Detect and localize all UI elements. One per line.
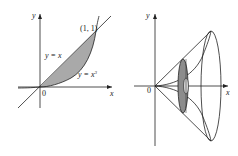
left-panel: y x 0 (1, 1) y = x y = x3 — [18, 11, 114, 108]
right-x-axis-label: x — [225, 88, 230, 97]
right-y-axis-arrow-icon — [153, 14, 157, 19]
curve1-label: y = x — [44, 51, 62, 60]
curve2-label: y = x3 — [77, 70, 98, 79]
left-y-axis-arrow-icon — [38, 14, 42, 19]
figure: y x 0 (1, 1) y = x y = x3 y x 0 — [0, 0, 238, 156]
left-x-axis-label: x — [109, 89, 114, 98]
point-label: (1, 1) — [80, 24, 98, 33]
right-panel: y x 0 — [134, 11, 230, 146]
left-origin-label: 0 — [42, 89, 46, 98]
right-y-axis-label: y — [145, 11, 150, 20]
right-origin-label: 0 — [147, 86, 151, 95]
left-y-axis-label: y — [31, 11, 36, 20]
